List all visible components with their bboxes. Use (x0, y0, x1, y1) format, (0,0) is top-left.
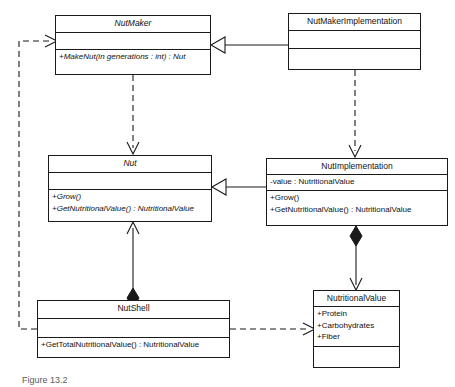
class-name-nutshell: NutShell (38, 301, 229, 319)
class-name-nutimplementation: NutImplementation (267, 159, 447, 175)
method-row: +MakeNut(in generations : int) : Nut (59, 51, 207, 63)
attribute-row: +Carbohydrates (317, 320, 396, 332)
class-attributes-nut (49, 173, 211, 190)
edge-composition-nutimplementation-nutritionalvalue (350, 226, 362, 290)
edge-generalization-nutmakerimplementation-nutmaker (211, 37, 288, 53)
class-attributes-nutshell (38, 319, 229, 338)
attribute-row: +Fiber (317, 331, 396, 343)
edge-dependency-nutmakerimplementation-nutimplementation (349, 70, 361, 157)
method-row: +GetNutritionalValue() : NutritionalValu… (270, 204, 444, 216)
figure-caption: Figure 13.2 (22, 374, 442, 386)
class-box-nutimplementation[interactable]: NutImplementation -value : NutritionalVa… (266, 158, 448, 226)
class-box-nutshell[interactable]: NutShell +GetTotalNutritionalValue() : N… (37, 300, 230, 358)
class-methods-nutimplementation: +Grow() +GetNutritionalValue() : Nutriti… (267, 191, 447, 216)
class-box-nutmaker[interactable]: NutMaker +MakeNut(in generations : int) … (55, 15, 211, 75)
class-attributes-nutritionalvalue: +Protein +Carbohydrates +Fiber (314, 307, 399, 347)
class-methods-nutmaker: +MakeNut(in generations : int) : Nut (56, 50, 210, 64)
edge-generalization-nutimplementation-nut (212, 179, 266, 195)
method-row: +GetTotalNutritionalValue() : Nutritiona… (41, 339, 226, 351)
edge-dependency-nutshell-nutritionalvalue (230, 323, 315, 335)
class-box-nutritionalvalue[interactable]: NutritionalValue +Protein +Carbohydrates… (313, 290, 400, 368)
class-attributes-nutmakerimplementation (289, 31, 420, 49)
edge-dependency-nutmaker-nut (127, 75, 139, 154)
class-attributes-nutimplementation: -value : NutritionalValue (267, 175, 447, 191)
method-row: +Grow() (270, 192, 444, 204)
uml-diagram-canvas: Nut (composition: filled diamond at NutS… (0, 0, 455, 387)
class-methods-nut: +Grow() +GetNutritionalValue() : Nutriti… (49, 190, 211, 215)
edge-composition-nutshell-nut (127, 222, 139, 308)
class-name-nutritionalvalue: NutritionalValue (314, 291, 399, 307)
class-box-nutmakerimplementation[interactable]: NutMakerImplementation (288, 13, 421, 70)
class-attributes-nutmaker (56, 33, 210, 50)
class-methods-nutshell: +GetTotalNutritionalValue() : Nutritiona… (38, 338, 229, 352)
class-name-nut: Nut (49, 156, 211, 173)
class-name-nutmakerimplementation: NutMakerImplementation (289, 14, 420, 31)
class-methods-nutritionalvalue (314, 347, 399, 358)
class-methods-nutmakerimplementation (289, 49, 420, 60)
class-name-nutmaker: NutMaker (56, 16, 210, 33)
method-row: +Grow() (52, 191, 208, 203)
class-box-nut[interactable]: Nut +Grow() +GetNutritionalValue() : Nut… (48, 155, 212, 222)
attribute-row: +Protein (317, 308, 396, 320)
method-row: +GetNutritionalValue() : NutritionalValu… (52, 203, 208, 215)
attribute-row: -value : NutritionalValue (270, 176, 444, 188)
